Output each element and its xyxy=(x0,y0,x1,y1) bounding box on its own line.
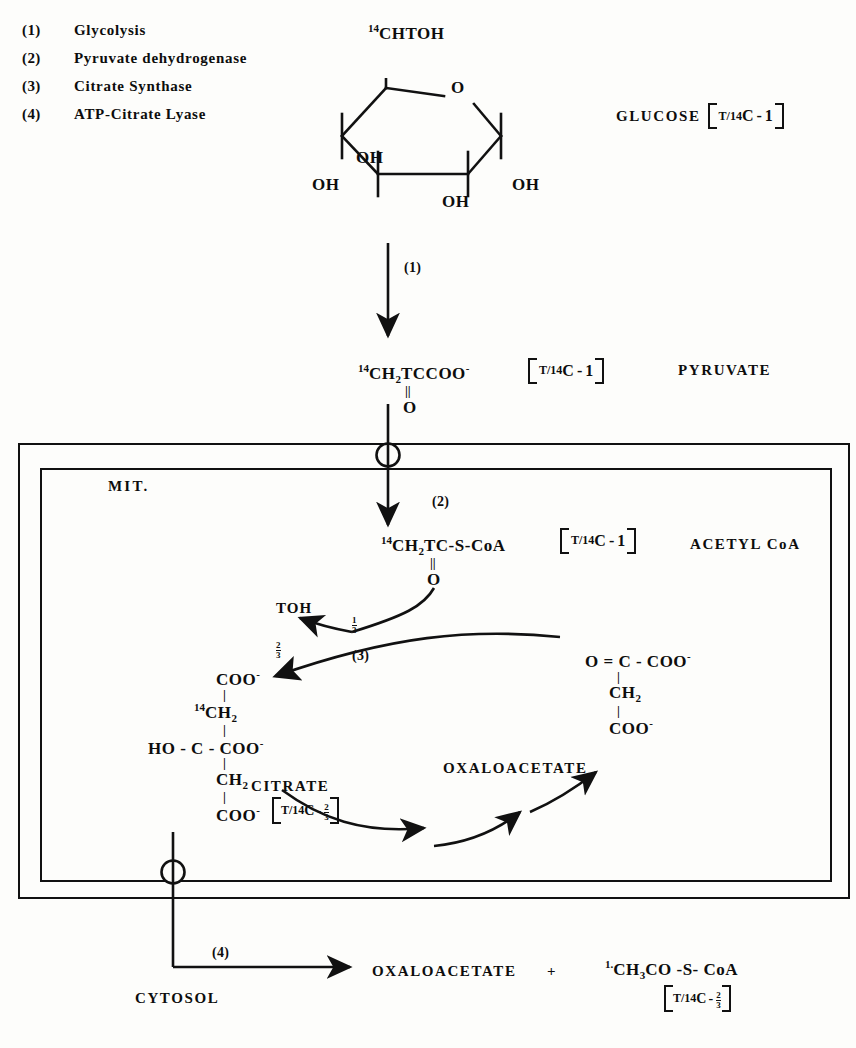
glucose-name: GLUCOSE xyxy=(616,108,701,125)
glucose-isotope-element: C xyxy=(742,107,754,125)
pyruvate-formula: 14CH2TCCOO- || O xyxy=(358,362,470,417)
mitochondrion-label: MIT. xyxy=(108,478,149,495)
glucose-hydroxyl-right: OH xyxy=(512,175,539,195)
acetyl-coa-double-bond: || xyxy=(430,557,505,569)
cytosolic-isotope-sup: T/14 xyxy=(673,991,696,1006)
glucose-isotope-sup: T/14 xyxy=(719,109,742,124)
acetyl-coa-isotope-element: C xyxy=(594,532,606,550)
acetyl-coa-c14-sup: 14 xyxy=(381,534,392,546)
pyruvate-isotope-position: 1 xyxy=(585,362,593,380)
citrate-coo-top: COO xyxy=(216,670,256,689)
legend-label: ATP-Citrate Lyase xyxy=(74,106,206,123)
citrate-isotope-group: T/14C-23 xyxy=(272,800,339,820)
pyruvate-isotope-bracket: T/14C-1 xyxy=(528,362,604,380)
glucose-ring-oxygen: O xyxy=(451,78,465,98)
citrate-coo-top-charge: - xyxy=(256,668,260,680)
glucose-c14-superscript: 14 xyxy=(368,22,379,34)
legend-label: Glycolysis xyxy=(74,22,146,39)
legend-number: (2) xyxy=(22,50,74,67)
acetyl-coa-carbonyl-oxygen: O xyxy=(427,570,505,589)
glucose-c14-label: 14CHTOH xyxy=(368,22,444,44)
cytosolic-isotope-numerator: 2 xyxy=(716,991,721,1000)
legend-item: (3) Citrate Synthase xyxy=(22,78,352,95)
pyruvate-double-bond: || xyxy=(405,385,470,397)
glucose-isotope-dash: - xyxy=(756,107,761,125)
glucose-name-group: GLUCOSE T/14C-1 xyxy=(616,107,784,125)
pyruvate-isotope-dash: - xyxy=(577,362,582,380)
glucose-isotope-bracket: T/14C-1 xyxy=(708,107,784,125)
acetyl-coa-isotope-dash: - xyxy=(609,532,614,550)
oxaloacetate-line1: O = C - COO xyxy=(585,652,687,671)
legend-label: Citrate Synthase xyxy=(74,78,192,95)
toh-label: TOH xyxy=(276,600,312,617)
cytosolic-acetyl-coa-sup: 1. xyxy=(605,958,613,970)
glucose-hydroxyl-bottom-left: OH xyxy=(356,148,383,168)
citrate-isotope-bracket: T/14C-23 xyxy=(272,801,339,821)
glucose-top-carbon-text: CHTOH xyxy=(379,24,444,43)
fraction-two-thirds: 2 3 xyxy=(275,638,282,658)
citrate-name: CITRATE xyxy=(251,778,329,795)
oxaloacetate-line2-sub: 2 xyxy=(636,692,642,704)
plus-sign: + xyxy=(547,963,557,980)
fraction-two-thirds-numerator: 2 xyxy=(276,641,281,650)
glucose-isotope-position: 1 xyxy=(765,107,773,125)
fraction-one-third-numerator: 1 xyxy=(352,616,357,625)
legend-item: (2) Pyruvate dehydrogenase xyxy=(22,50,352,67)
cytosolic-acetyl-coa-rest: CO -S- CoA xyxy=(645,960,738,979)
step-label-pyruvate-dehydrogenase: (2) xyxy=(432,494,449,510)
legend-label: Pyruvate dehydrogenase xyxy=(74,50,247,67)
enzyme-legend: (1) Glycolysis (2) Pyruvate dehydrogenas… xyxy=(22,22,352,134)
acetyl-coa-isotope-position: 1 xyxy=(617,532,625,550)
pyruvate-ch: CH xyxy=(369,364,396,383)
fraction-one-third: 1 3 xyxy=(351,613,358,633)
citrate-structure: COO- | 14CH2 | HO - C - COO- | CH2 | COO… xyxy=(170,668,263,825)
citrate-isotope-numerator: 2 xyxy=(324,803,329,812)
cytosolic-acetyl-coa-ch: CH xyxy=(613,960,640,979)
pathway-diagram: (1) Glycolysis (2) Pyruvate dehydrogenas… xyxy=(0,0,856,1048)
legend-number: (3) xyxy=(22,78,74,95)
fraction-one-third-denominator: 3 xyxy=(352,625,357,635)
oxaloacetate-structure: O = C - COO- | CH2 | COO- xyxy=(585,650,691,738)
citrate-isotope-dash: - xyxy=(316,803,321,819)
step-label-atp-citrate-lyase: (4) xyxy=(212,945,229,961)
oxaloacetate-name-mito: OXALOACETATE xyxy=(443,760,588,777)
cytosolic-acetyl-coa-formula: 1.CH3CO -S- CoA xyxy=(605,958,738,981)
pyruvate-c14-sup: 14 xyxy=(358,362,369,374)
cytosolic-isotope-denominator: 3 xyxy=(716,1000,721,1010)
oxaloacetate-line1-charge: - xyxy=(687,650,691,662)
glucose-hydroxyl-bottom-right: OH xyxy=(442,192,469,212)
cytosolic-isotope-element: C xyxy=(696,991,706,1007)
citrate-isotope-sup: T/14 xyxy=(281,803,304,818)
pyruvate-name: PYRUVATE xyxy=(678,362,771,379)
citrate-ch2-lower: CH xyxy=(216,770,243,789)
pyruvate-isotope-group: T/14C-1 xyxy=(528,360,604,380)
legend-item: (4) ATP-Citrate Lyase xyxy=(22,106,352,123)
oxaloacetate-name-cytosol: OXALOACETATE xyxy=(372,963,517,980)
acetyl-coa-formula: 14CH2TC-S-CoA || O xyxy=(381,534,505,589)
citrate-ch2-upper-sub: 2 xyxy=(232,712,238,724)
cytosol-label: CYTOSOL xyxy=(135,990,219,1007)
citrate-ch2-upper: CH xyxy=(205,703,232,722)
acetyl-coa-isotope-bracket: T/14C-1 xyxy=(560,532,636,550)
oxaloacetate-line2: CH xyxy=(609,683,636,702)
acetyl-coa-name: ACETYL CoA xyxy=(690,536,801,553)
mitochondrion-inner-membrane xyxy=(40,468,832,882)
citrate-coo-bottom-charge: - xyxy=(256,804,260,816)
cytosolic-isotope-fraction: 23 xyxy=(716,991,721,1011)
citrate-c14-sup: 14 xyxy=(194,701,205,713)
glucose-hydroxyl-left: OH xyxy=(312,175,339,195)
citrate-isotope-element: C xyxy=(304,803,314,819)
acetyl-coa-isotope-group: T/14C-1 xyxy=(560,530,636,550)
citrate-central-carbon: HO - C - COO xyxy=(148,738,260,757)
acetyl-coa-isotope-sup: T/14 xyxy=(571,533,594,548)
acetyl-coa-ch: CH xyxy=(392,536,419,555)
pyruvate-carbonyl-oxygen: O xyxy=(403,398,470,417)
oxaloacetate-line3-charge: - xyxy=(649,717,653,729)
citrate-isotope-fraction: 23 xyxy=(324,803,329,823)
legend-item: (1) Glycolysis xyxy=(22,22,352,39)
citrate-coo-bottom: COO xyxy=(216,805,256,824)
cytosolic-isotope-bracket: T/14C-23 xyxy=(664,989,731,1009)
legend-number: (1) xyxy=(22,22,74,39)
pyruvate-rest: TCCOO xyxy=(401,364,466,383)
pyruvate-charge: - xyxy=(466,362,470,374)
